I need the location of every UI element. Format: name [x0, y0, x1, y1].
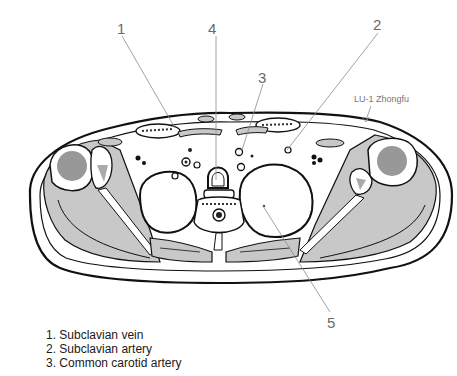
- acupoint-label: LU-1 Zhongfu: [354, 94, 409, 104]
- callout-5: 5: [327, 314, 335, 331]
- legend-item-2: 2. Subclavian artery: [46, 342, 181, 356]
- callout-2: 2: [373, 16, 381, 33]
- callout-3: 3: [258, 69, 266, 86]
- legend-item-3: 3. Common carotid artery: [46, 356, 181, 370]
- anatomy-figure: 1 2 3 4 5 LU-1 Zhongfu 1. Subclavian vei…: [0, 0, 457, 376]
- cross-section-drawing: [0, 0, 457, 376]
- legend-item-1: 1. Subclavian vein: [46, 328, 181, 342]
- callout-1: 1: [117, 20, 125, 37]
- callout-4: 4: [208, 20, 216, 37]
- legend: 1. Subclavian vein 2. Subclavian artery …: [46, 328, 181, 370]
